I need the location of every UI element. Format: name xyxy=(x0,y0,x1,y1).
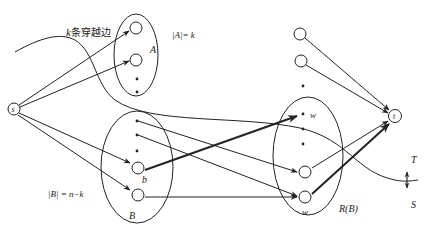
label-set-B-size: |B| = n−k xyxy=(48,189,85,199)
label-w-top: w xyxy=(310,110,316,120)
node-R1 xyxy=(299,166,311,178)
node-B-dot2 xyxy=(136,134,139,137)
label-crossing-edges: k条穿越边 xyxy=(66,26,111,38)
node-R-dot3 xyxy=(302,143,305,146)
flow-network-diagram: s t k条穿越边 |A|= k A |B| = n−k B b w w R(B… xyxy=(0,0,429,237)
label-node-b: b xyxy=(142,174,147,185)
node-Rw xyxy=(299,191,311,203)
label-set-A: A xyxy=(149,44,157,55)
node-A-dot1 xyxy=(136,78,139,81)
node-top2 xyxy=(295,55,307,67)
edge-s-Bb xyxy=(19,113,130,163)
label-side-T: T xyxy=(411,154,418,165)
label-set-B: B xyxy=(129,210,135,221)
label-crossing-text: 条穿越边 xyxy=(71,26,111,38)
label-set-A-size: |A|= k xyxy=(172,30,196,40)
node-B-dot1 xyxy=(136,120,139,123)
node-B-low xyxy=(132,189,144,201)
node-top1 xyxy=(294,28,306,40)
node-A1 xyxy=(130,22,142,34)
node-w-dot xyxy=(302,113,305,116)
node-B-dot3 xyxy=(136,150,139,153)
edge-s-Blow xyxy=(18,115,130,190)
edge-R1-t xyxy=(312,121,388,168)
node-A-dot2 xyxy=(136,91,139,94)
label-set-RB: R(B) xyxy=(338,203,359,215)
label-w-bottom: w xyxy=(302,207,308,217)
label-side-S: S xyxy=(411,199,416,210)
edge-Rw-t-bold xyxy=(312,124,389,194)
node-b xyxy=(132,162,144,174)
edge-top2-t xyxy=(306,65,388,113)
label-source: s xyxy=(12,105,15,114)
node-R-dot2 xyxy=(302,128,305,131)
node-A2 xyxy=(130,54,142,66)
cut-curve xyxy=(15,36,418,181)
node-top-dot xyxy=(302,85,305,88)
